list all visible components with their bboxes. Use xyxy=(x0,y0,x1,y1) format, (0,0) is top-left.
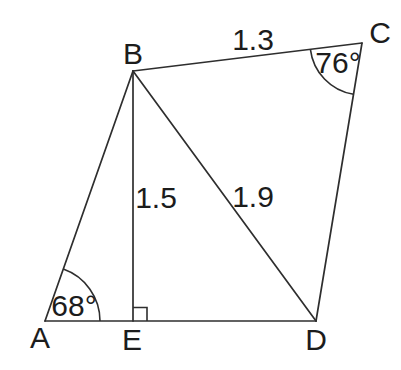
right-angle-mark-E xyxy=(133,308,147,322)
side-label-BC: 1.3 xyxy=(232,23,274,56)
vertex-label-C: C xyxy=(369,16,391,49)
side-label-BE: 1.5 xyxy=(135,181,177,214)
edge-CD xyxy=(316,43,362,321)
angle-label-C: 76° xyxy=(315,46,360,79)
side-label-BD: 1.9 xyxy=(232,180,274,213)
vertex-label-E: E xyxy=(122,323,142,356)
vertex-label-B: B xyxy=(123,37,143,70)
geometry-diagram: B C A E D 1.3 1.5 1.9 68° 76° xyxy=(0,0,401,370)
figure-canvas: B C A E D 1.3 1.5 1.9 68° 76° xyxy=(0,0,401,370)
vertex-label-D: D xyxy=(305,323,327,356)
vertex-label-A: A xyxy=(30,321,50,354)
edge-AB xyxy=(45,71,133,321)
angle-label-A: 68° xyxy=(51,289,96,322)
